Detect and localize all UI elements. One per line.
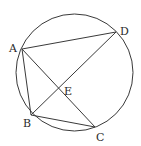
label-point-B: B <box>23 117 31 130</box>
label-point-D: D <box>120 25 129 38</box>
diagonal-BD <box>31 32 116 115</box>
label-point-C: C <box>96 131 104 144</box>
label-point-A: A <box>8 42 18 55</box>
geometry-diagram: A D B C E <box>0 0 141 146</box>
label-point-E: E <box>64 85 72 98</box>
